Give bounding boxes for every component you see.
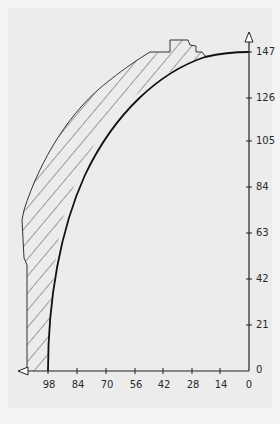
x-axis bbox=[18, 367, 249, 375]
x-tick-label: 56 bbox=[130, 380, 143, 390]
x-tick-label: 98 bbox=[43, 380, 56, 390]
y-tick-label: 126 bbox=[256, 93, 275, 103]
x-tick-label: 14 bbox=[215, 380, 228, 390]
y-tick-label: 42 bbox=[256, 274, 269, 284]
hatched-band bbox=[0, 0, 280, 424]
x-tick-label: 70 bbox=[101, 380, 114, 390]
x-tick-label: 84 bbox=[72, 380, 85, 390]
x-tick-label: 0 bbox=[246, 380, 252, 390]
y-tick-label: 147 bbox=[256, 47, 275, 57]
boundary-curve bbox=[48, 52, 249, 371]
y-axis bbox=[245, 32, 253, 371]
y-tick-label: 84 bbox=[256, 182, 269, 192]
x-tick-label: 42 bbox=[158, 380, 171, 390]
y-tick-label: 21 bbox=[256, 320, 269, 330]
y-tick-label: 0 bbox=[256, 365, 262, 375]
y-tick-label: 63 bbox=[256, 228, 269, 238]
x-tick-label: 28 bbox=[187, 380, 200, 390]
y-tick-label: 105 bbox=[256, 136, 275, 146]
diagram-canvas bbox=[0, 0, 280, 424]
